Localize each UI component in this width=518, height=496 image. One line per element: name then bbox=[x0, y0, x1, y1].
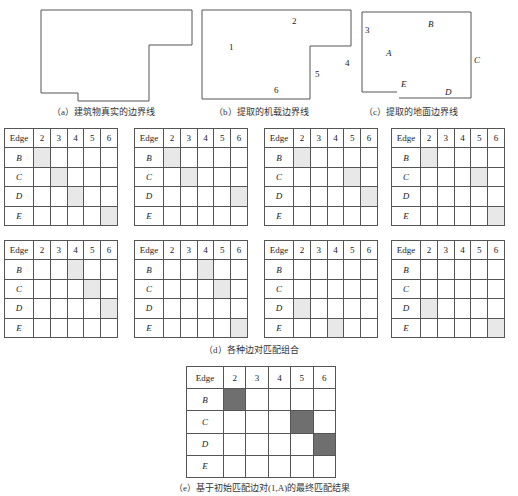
grid-row: B bbox=[187, 389, 336, 411]
grid-row: D bbox=[265, 187, 378, 206]
grid-cell bbox=[34, 187, 51, 206]
grid-row-header: C bbox=[392, 279, 421, 298]
grid-cell bbox=[488, 279, 505, 298]
grid-corner-label: Edge bbox=[265, 129, 294, 148]
grid-cell bbox=[231, 279, 248, 298]
grid-cell bbox=[313, 389, 335, 411]
grid-cell bbox=[454, 299, 471, 318]
grid-corner-label: Edge bbox=[265, 241, 294, 260]
grid-cell bbox=[310, 299, 327, 318]
grid-cell bbox=[101, 167, 118, 186]
grid-row: C bbox=[265, 279, 378, 298]
grid-cell-matched bbox=[294, 299, 311, 318]
grid-corner-label: Edge bbox=[392, 129, 421, 148]
grid-cell bbox=[246, 455, 268, 477]
grid-cell bbox=[50, 148, 67, 167]
grid-cell-matched bbox=[327, 318, 344, 337]
grid-cell-matched bbox=[361, 187, 378, 206]
grid-row: B bbox=[5, 148, 118, 167]
grid-col-header: 6 bbox=[231, 129, 248, 148]
grid-col-header: 2 bbox=[421, 129, 438, 148]
edge-label-C: C bbox=[474, 56, 480, 65]
grid-cell bbox=[214, 260, 231, 279]
grid-cell bbox=[197, 148, 214, 167]
grid-cell bbox=[50, 279, 67, 298]
grid-cell bbox=[344, 187, 361, 206]
grid-col-header: 6 bbox=[313, 367, 335, 389]
caption-e: （e）基于初始匹配边对(1,A)的最终匹配结果 bbox=[174, 481, 350, 494]
grid-row-header: C bbox=[265, 167, 294, 186]
grid-cell bbox=[454, 167, 471, 186]
grid-row-header: B bbox=[135, 260, 164, 279]
grid-col-header: 6 bbox=[361, 129, 378, 148]
grid-cell bbox=[164, 167, 181, 186]
grid-cell bbox=[294, 206, 311, 225]
grid-cell-matched bbox=[231, 187, 248, 206]
grid-cell bbox=[488, 299, 505, 318]
grid-row: C bbox=[392, 167, 505, 186]
grid-cell bbox=[180, 299, 197, 318]
grid-col-header: 6 bbox=[101, 129, 118, 148]
grid-cell bbox=[344, 318, 361, 337]
grid-cell bbox=[101, 318, 118, 337]
grid-col-header: 2 bbox=[294, 241, 311, 260]
grid-cell bbox=[344, 260, 361, 279]
grid-cell bbox=[310, 167, 327, 186]
combination-grid-2: Edge23456BCDE bbox=[134, 128, 248, 226]
grid-cell bbox=[197, 299, 214, 318]
grid-row-header: D bbox=[392, 299, 421, 318]
ground-boundary-shape bbox=[0, 0, 518, 120]
grid-cell-matched bbox=[231, 318, 248, 337]
grid-col-header: 3 bbox=[310, 241, 327, 260]
grid-cell bbox=[310, 187, 327, 206]
grid-corner-label: Edge bbox=[135, 241, 164, 260]
grid-corner-label: Edge bbox=[135, 129, 164, 148]
grid-cell bbox=[361, 318, 378, 337]
grid-cell bbox=[437, 206, 454, 225]
grid-cell bbox=[310, 260, 327, 279]
grid-cell bbox=[224, 455, 246, 477]
grid-cell bbox=[327, 206, 344, 225]
grid-row: C bbox=[187, 411, 336, 433]
grid-col-header: 2 bbox=[164, 241, 181, 260]
grid-corner-label: Edge bbox=[5, 129, 34, 148]
grid-cell-matched bbox=[488, 318, 505, 337]
grid-cell bbox=[214, 318, 231, 337]
grid-cell-matched bbox=[294, 148, 311, 167]
grid-cell-matched bbox=[488, 206, 505, 225]
grid-row-header: B bbox=[5, 148, 34, 167]
grid-cell-matched bbox=[421, 148, 438, 167]
grid-col-header: 3 bbox=[437, 241, 454, 260]
grid-cell-matched bbox=[344, 167, 361, 186]
grid-cell bbox=[454, 279, 471, 298]
grid-cell bbox=[471, 260, 488, 279]
grid-cell bbox=[197, 187, 214, 206]
grid-col-header: 5 bbox=[291, 367, 313, 389]
grid-row-header: C bbox=[135, 167, 164, 186]
grid-cell bbox=[294, 318, 311, 337]
grid-row-header: D bbox=[265, 299, 294, 318]
grid-header-row: Edge23456 bbox=[5, 129, 118, 148]
grid-cell bbox=[471, 279, 488, 298]
grid-col-header: 6 bbox=[488, 241, 505, 260]
grid-cell-matched bbox=[34, 148, 51, 167]
grid-col-header: 4 bbox=[268, 367, 290, 389]
grid-cell bbox=[180, 260, 197, 279]
grid-row-header: D bbox=[5, 299, 34, 318]
grid-cell bbox=[361, 148, 378, 167]
grid-cell bbox=[344, 279, 361, 298]
grid-cell-matched bbox=[471, 167, 488, 186]
grid-row: B bbox=[392, 148, 505, 167]
grid-row: E bbox=[392, 318, 505, 337]
grid-cell bbox=[84, 206, 101, 225]
grid-cell-matched bbox=[84, 279, 101, 298]
grid-col-header: 4 bbox=[67, 129, 84, 148]
grid-cell bbox=[454, 318, 471, 337]
grid-cell bbox=[34, 167, 51, 186]
grid-cell bbox=[327, 167, 344, 186]
grid-col-header: 5 bbox=[214, 129, 231, 148]
grid-cell bbox=[231, 260, 248, 279]
grid-cell-matched bbox=[164, 148, 181, 167]
grid-row: D bbox=[392, 299, 505, 318]
grid-col-header: 3 bbox=[246, 367, 268, 389]
